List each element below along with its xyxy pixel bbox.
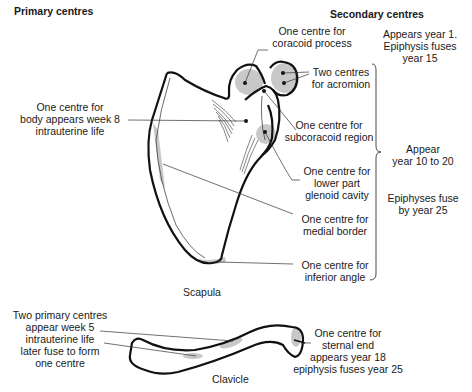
label-clavicle-primary: Two primary centres appear week 5 intrau… (8, 309, 112, 369)
caption-scapula: Scapula (183, 286, 221, 298)
label-coracoid-process: One centre for coracoid process (269, 25, 355, 49)
label-body-centre: One centre for body appears week 8 intra… (12, 101, 128, 137)
label-coracoid-timing: Appears year 1. Epiphysis fuses year 15 (371, 28, 469, 64)
label-group-fuse: Epiphyses fuse by year 25 (381, 192, 465, 216)
clavicle-outline (130, 325, 303, 373)
caption-clavicle: Clavicle (212, 373, 249, 385)
scapula-outline (148, 62, 297, 264)
label-sternal-end: One centre for sternal end appears year … (290, 327, 406, 375)
label-group-appear: Appear year 10 to 20 (381, 143, 465, 167)
label-subcoracoid: One centre for subcoracoid region (284, 119, 374, 143)
label-acromion: Two centres for acromion (309, 66, 373, 90)
label-inferior-angle: One centre for inferior angle (298, 259, 372, 283)
label-medial-border: One centre for medial border (298, 213, 372, 237)
label-glenoid-cavity: One centre for lower part glenoid cavity (300, 165, 374, 201)
clavicle-shading (183, 327, 301, 359)
